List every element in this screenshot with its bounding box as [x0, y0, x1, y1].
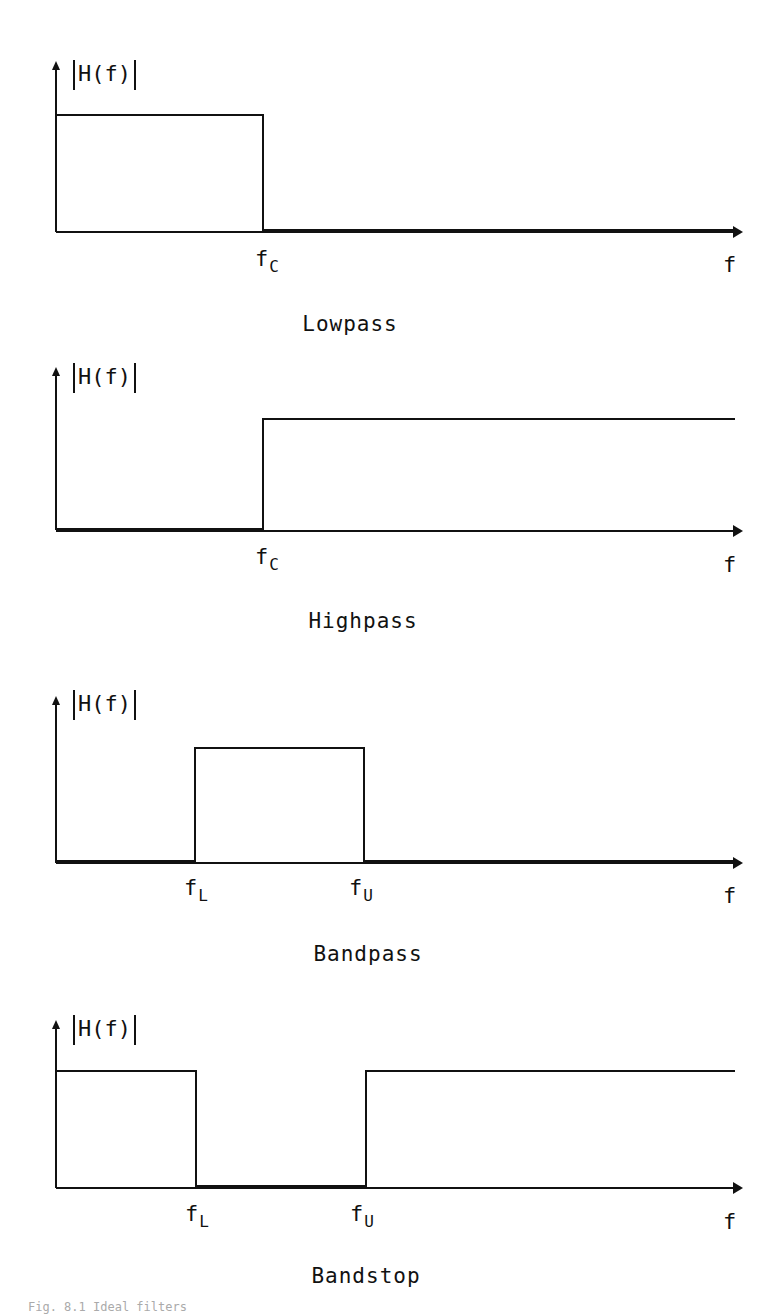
upper-cutoff-label: fU [350, 1203, 374, 1225]
lower-passband-curve [56, 1071, 196, 1188]
y-axis-label: H(f) [70, 1015, 139, 1045]
figure-caption: Fig. 8.1 Ideal filters [28, 1300, 187, 1314]
x-axis-arrow-icon [733, 1182, 743, 1194]
lower-cutoff-label: fL [185, 1203, 209, 1225]
panel-title: Bandstop [311, 1264, 420, 1288]
upper-passband-curve [366, 1071, 735, 1188]
x-axis-label: f [723, 1211, 736, 1233]
y-axis-arrow-icon [52, 1020, 60, 1029]
